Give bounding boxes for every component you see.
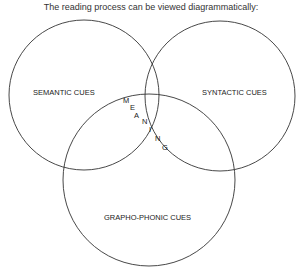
meaning-letter-n2: N — [155, 134, 160, 143]
semantic-cues-label: SEMANTIC CUES — [33, 88, 95, 97]
meaning-letter-a: A — [134, 111, 139, 120]
meaning-letter-m: M — [123, 96, 129, 105]
venn-diagram — [0, 0, 302, 273]
meaning-letter-g: G — [162, 143, 168, 152]
meaning-letter-i: I — [149, 125, 151, 134]
grapho-phonic-cues-label: GRAPHO-PHONIC CUES — [104, 213, 191, 222]
syntactic-cues-label: SYNTACTIC CUES — [202, 88, 267, 97]
meaning-letter-n: N — [142, 117, 147, 126]
